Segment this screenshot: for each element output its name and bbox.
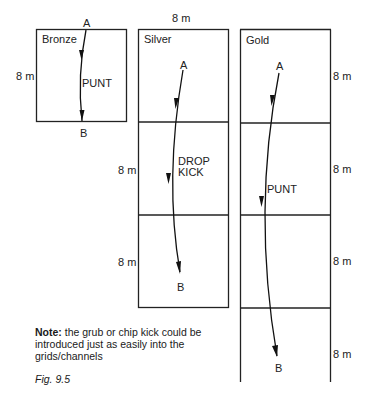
bronze-size-label: 8 m [16, 70, 34, 82]
bronze-start-label: A [83, 17, 90, 29]
gold-start-label: A [276, 60, 283, 72]
bronze-end-label: B [80, 127, 87, 139]
silver-title: Silver [144, 33, 172, 45]
width-label: 8 m [172, 12, 190, 24]
bronze-kick-label: PUNT [82, 77, 112, 89]
gold-size-label-2: 8 m [333, 163, 351, 175]
gold-title: Gold [246, 34, 269, 46]
silver-size-label-2: 8 m [118, 256, 136, 268]
silver-arrowhead-icon [176, 261, 181, 274]
bronze-kick-path [80, 30, 86, 121]
silver-size-label-1: 8 m [118, 164, 136, 176]
gold-kick-label: PUNT [267, 183, 297, 195]
silver-arrowhead-icon [166, 173, 171, 184]
gold-grid [240, 30, 331, 383]
gold-size-label-4: 8 m [333, 348, 351, 360]
bronze-title: Bronze [42, 33, 77, 45]
note-label: Note: [35, 326, 62, 338]
silver-start-label: A [180, 59, 187, 71]
silver-end-label: B [177, 281, 184, 293]
gold-size-label-1: 8 m [333, 70, 351, 82]
note-text: Note: the grub or chip kick could be int… [35, 326, 235, 362]
gold-arrowhead-icon [259, 196, 264, 207]
gold-size-label-3: 8 m [333, 255, 351, 267]
bronze-arrowhead-icon [79, 50, 84, 60]
silver-kick-label-line2: KICK [178, 166, 204, 178]
gold-arrowhead-icon [272, 345, 278, 357]
gold-end-label: B [275, 362, 282, 374]
bronze-arrowhead-icon [80, 110, 85, 121]
figure-caption: Fig. 9.5 [35, 373, 70, 385]
